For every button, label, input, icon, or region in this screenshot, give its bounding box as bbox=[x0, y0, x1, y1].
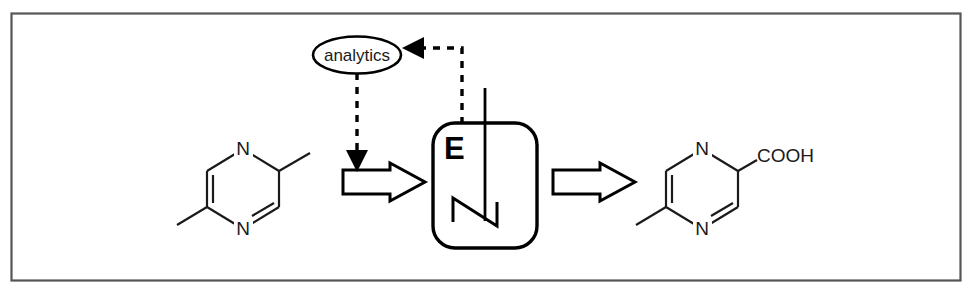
analytics-label: analytics bbox=[324, 46, 390, 65]
carboxyl-group-label: COOH bbox=[757, 145, 814, 166]
reactor-label: E bbox=[444, 131, 465, 166]
product-nitrogen-bottom-label: N bbox=[695, 218, 709, 239]
diagram-canvas: N N analytics E bbox=[0, 0, 973, 293]
product-nitrogen-top-label: N bbox=[695, 138, 709, 159]
substrate-nitrogen-top-label: N bbox=[236, 138, 250, 159]
substrate-nitrogen-bottom-label: N bbox=[236, 218, 250, 239]
process-flow-diagram: N N analytics E bbox=[0, 0, 973, 293]
